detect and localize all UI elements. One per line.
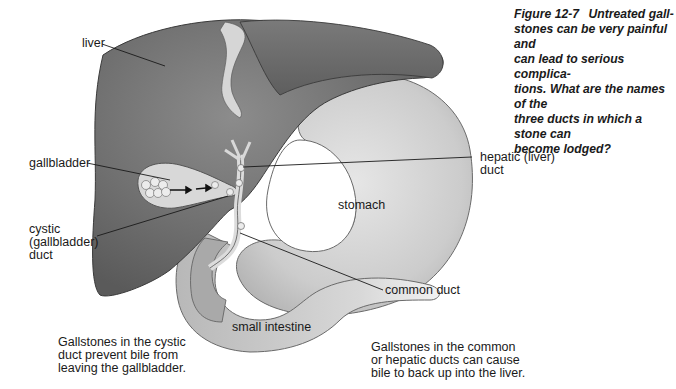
note-common-hepatic-stones: Gallstones in the common or hepatic duct…	[371, 341, 525, 380]
note-cystic-stones: Gallstones in the cystic duct prevent bi…	[58, 336, 186, 375]
label-gallbladder: gallbladder	[29, 157, 90, 170]
label-small-intestine: small intestine	[232, 321, 311, 334]
label-stomach: stomach	[338, 199, 385, 212]
label-cystic-duct: cystic (gallbladder) duct	[29, 223, 98, 262]
label-common-duct: common duct	[385, 284, 460, 297]
figure-number: Figure 12-7	[514, 7, 579, 21]
label-liver: liver	[82, 37, 105, 50]
figure-caption: Figure 12-7 Untreated gall- stones can b…	[514, 7, 674, 157]
